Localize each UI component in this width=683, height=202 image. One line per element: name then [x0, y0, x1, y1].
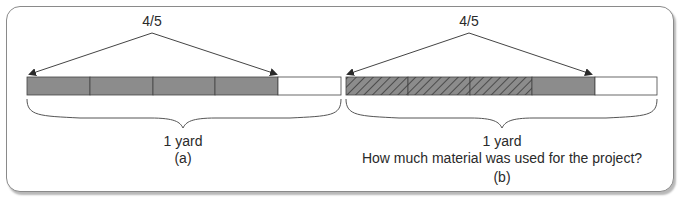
diagram-a: 4/5 1 yard (a) [27, 13, 341, 166]
caption-b: (b) [493, 169, 510, 185]
fraction-label-b: 4/5 [459, 13, 479, 29]
arrow-left-a [30, 33, 152, 74]
segment-shaded [90, 77, 153, 95]
segment-unshaded [595, 77, 657, 95]
segment-shaded [532, 77, 595, 95]
fraction-label-a: 4/5 [142, 13, 162, 29]
caption-a: (a) [174, 150, 191, 166]
fraction-bar-diagram: 4/5 1 yard (a) 4/5 1 yard How much mater… [0, 0, 683, 202]
diagram-b: 4/5 1 yard How much material was used fo… [346, 13, 657, 185]
segment-shaded [153, 77, 215, 95]
segment-hatched [470, 77, 532, 95]
segment-shaded [27, 77, 90, 95]
bar-a [27, 77, 341, 95]
brace-a [27, 99, 341, 128]
segment-hatched [408, 77, 470, 95]
whole-label-a: 1 yard [164, 133, 203, 149]
whole-label-b: 1 yard [483, 133, 522, 149]
arrow-left-b [348, 33, 469, 74]
arrow-right-a [152, 33, 276, 74]
bar-b [346, 77, 657, 95]
segment-hatched [346, 77, 408, 95]
segment-unshaded [278, 77, 341, 95]
brace-b [346, 99, 657, 128]
question-text: How much material was used for the proje… [362, 150, 642, 166]
arrow-right-b [469, 33, 591, 74]
segment-shaded [215, 77, 278, 95]
